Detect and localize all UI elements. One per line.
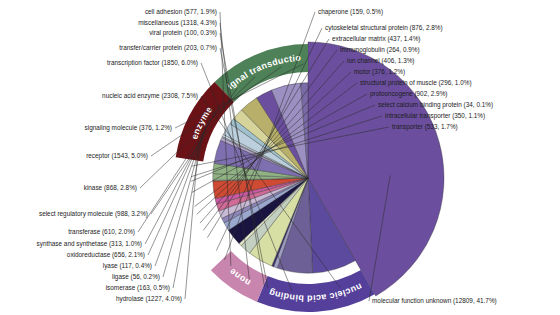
slice-label-left: lyase (117, 0.4%) bbox=[103, 262, 152, 270]
slice-label-right: extracellular matrix (437, 1.4%) bbox=[332, 35, 420, 43]
slice-label-right: motor (376, 1.2%) bbox=[354, 68, 405, 76]
slice-label-right: intracellular transporter (350, 1.1%) bbox=[385, 112, 485, 120]
slice-label-left: transcription factor (1850, 6.0%) bbox=[107, 59, 198, 67]
slice-label-left: isomerase (163, 0.5%) bbox=[106, 284, 170, 292]
chart-svg: nucleic acid bindingnonesignal transduct… bbox=[0, 0, 560, 315]
slice-label-top: viral protein (100, 0.3%) bbox=[149, 29, 217, 37]
slice-label-right: chaperone (159, 0.5%) bbox=[318, 8, 383, 16]
slice-label-left: hydrolase (1227, 4.0%) bbox=[116, 295, 182, 303]
slice-label-top: cell adhesion (577, 1.9%) bbox=[145, 8, 217, 16]
slice-label-left: transferase (610, 2.0%) bbox=[68, 228, 135, 236]
slice-label-left: kinase (868, 2.8%) bbox=[84, 184, 137, 192]
slice-label-top: miscellaneous (1318, 4.3%) bbox=[138, 19, 217, 27]
slice-label-right: transporter (533, 1.7%) bbox=[392, 123, 458, 131]
slice-label-left: oxidoreductase (656, 2.1%) bbox=[67, 251, 145, 259]
slice-label-right: protooncogene (902, 2.9%) bbox=[370, 90, 447, 98]
slice-label-right: cytoskeletal structural protein (876, 2.… bbox=[325, 24, 443, 32]
slice-label-left: synthase and synthetase (313, 1.0%) bbox=[36, 240, 142, 248]
slice-label-left: nucleic acid enzyme (2308, 7.5%) bbox=[102, 92, 198, 100]
pie-chart-figure: nucleic acid bindingnonesignal transduct… bbox=[0, 0, 560, 315]
slice-label-right: structural protein of muscle (296, 1.0%) bbox=[360, 79, 472, 87]
slice-label-left: select regulatory molecule (988, 3.2%) bbox=[39, 210, 148, 218]
slice-label-left: signaling molecule (376, 1.2%) bbox=[85, 124, 172, 132]
slice-label-left: ligase (56, 0.2%) bbox=[112, 273, 160, 281]
slice-label-left: receptor (1543, 5.0%) bbox=[86, 152, 148, 160]
slice-label-bottom: molecular function unknown (12809, 41.7%… bbox=[372, 297, 497, 305]
slice-label-top: transfer/carrier protein (203, 0.7%) bbox=[119, 44, 217, 52]
slice-label-right: select calcium binding protein (34, 0.1%… bbox=[378, 101, 493, 109]
slice-label-right: immunoglobulin (264, 0.9%) bbox=[340, 46, 420, 54]
slice-label-right: ion channel (406, 1.3%) bbox=[347, 57, 415, 65]
